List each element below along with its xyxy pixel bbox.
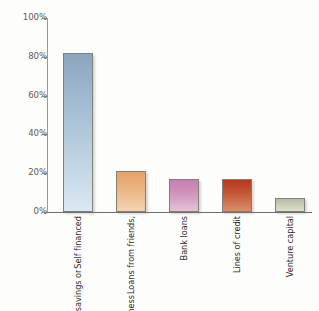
bar[interactable] (116, 171, 146, 212)
x-label-slot: Venture capital (266, 214, 314, 311)
bar-slot (107, 18, 155, 212)
x-label-slot: Bank loans (160, 214, 208, 311)
bar-chart: 100%80%60%40%20%0% Self financedfrom sav… (0, 0, 319, 311)
x-axis-label-line: Bank loans (179, 216, 189, 260)
x-axis-label-line: Lines of credit (232, 216, 242, 273)
plot-area (47, 18, 312, 212)
x-axis-label: Venture capital (285, 216, 295, 277)
y-tick-label: 80% (9, 52, 47, 61)
x-axis-label-line: Venture capital (285, 216, 295, 277)
x-axis-label: Bank loans (179, 216, 189, 260)
bar-slot (266, 18, 314, 212)
bar-slot (213, 18, 261, 212)
bar-slot (160, 18, 208, 212)
x-label-slot: Self financedfrom savings orcredit cards (54, 214, 102, 311)
y-tick-label: 60% (9, 91, 47, 100)
x-axis-label: Loans from friends,family, or businessas… (126, 216, 136, 311)
bar[interactable] (222, 179, 252, 212)
bar[interactable] (275, 198, 305, 212)
y-tick-label: 20% (9, 168, 47, 177)
y-tick-label: 100% (9, 13, 47, 22)
y-tick-label: 0% (9, 207, 47, 216)
bar-slot (54, 18, 102, 212)
x-label-slot: Lines of credit (213, 214, 261, 311)
x-axis-label: Lines of credit (232, 216, 242, 273)
bar[interactable] (169, 179, 199, 212)
x-axis-label-line: Loans from friends, (126, 216, 136, 294)
x-axis-line (47, 212, 312, 213)
x-axis-labels: Self financedfrom savings orcredit cards… (47, 214, 312, 311)
y-tick-label: 40% (9, 129, 47, 138)
x-label-slot: Loans from friends,family, or businessas… (107, 214, 155, 311)
x-axis-label-line: Self financed (73, 216, 83, 269)
y-axis-ticks: 100%80%60%40%20%0% (0, 0, 47, 311)
bar[interactable] (63, 53, 93, 212)
x-axis-label-line: family, or business (126, 295, 136, 311)
x-axis-label: Self financedfrom savings orcredit cards (73, 216, 83, 311)
x-axis-label-line: from savings or (73, 270, 83, 311)
